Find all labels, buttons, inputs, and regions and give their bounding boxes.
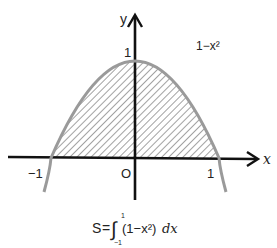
area-formula: S = ∫ 1 −1 (1−x²) dx — [92, 212, 178, 246]
parabola-area-diagram: y x 1 −1 O 1 1−x² S = ∫ 1 −1 (1−x²) dx — [0, 0, 277, 248]
integral-sign-icon: ∫ — [110, 218, 118, 241]
formula-lower-limit: −1 — [114, 239, 122, 246]
formula-lhs: S — [92, 220, 101, 236]
x-tick-one: 1 — [207, 166, 214, 181]
formula-equals: = — [102, 220, 110, 236]
formula-differential: dx — [162, 221, 178, 236]
formula-upper-limit: 1 — [121, 212, 125, 219]
y-axis-label: y — [120, 11, 127, 27]
function-label: 1−x² — [196, 39, 220, 53]
x-tick-neg-one: −1 — [28, 166, 43, 181]
x-axis-label: x — [263, 151, 271, 167]
origin-label: O — [121, 166, 131, 181]
y-tick-one: 1 — [124, 45, 131, 60]
formula-integrand: (1−x²) — [122, 221, 156, 236]
